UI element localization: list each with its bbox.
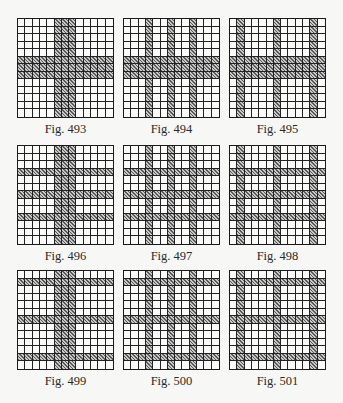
hatched-cell [274,79,281,87]
hatched-cell [69,42,76,50]
hatched-cell [62,339,69,347]
hatched-cell [84,169,91,177]
grid-cell [18,206,25,214]
grid-cell [47,109,54,117]
hatched-cell [69,161,76,169]
grid-cell [303,361,310,369]
hatched-cell [131,64,138,72]
hatched-cell [62,109,69,117]
grid-cell [212,331,219,339]
hatched-cell [237,236,244,244]
grid-cell [318,236,325,244]
hatched-cell [168,286,175,294]
hatched-cell [69,102,76,110]
hatched-cell [55,331,62,339]
grid-cell [182,271,189,279]
grid-cell [47,49,54,57]
grid-cell [252,102,259,110]
grid-cell [131,27,138,35]
figure-caption: Fig. 498 [229,249,326,264]
figure-495: Fig. 495 [229,18,326,137]
hatched-cell [131,72,138,80]
grid-cell [245,184,252,192]
hatched-cell [33,169,40,177]
hatched-cell [55,169,62,177]
grid-cell [84,361,91,369]
hatched-cell [40,57,47,65]
hatched-cell [168,49,175,57]
grid-cell [252,94,259,102]
grid-cell [212,184,219,192]
hatched-cell [204,169,211,177]
grid-cell [230,309,237,317]
grid-cell [175,184,182,192]
hatched-cell [230,57,237,65]
hatched-cell [84,354,91,362]
grid-cell [288,109,295,117]
grid-cell [230,361,237,369]
grid-cell [131,346,138,354]
hatched-cell [274,109,281,117]
hatched-cell [237,191,244,199]
grid-cell [303,331,310,339]
hatched-cell [69,331,76,339]
hatched-grid [229,18,326,118]
hatched-cell [237,161,244,169]
hatched-cell [55,199,62,207]
grid-cell [33,42,40,50]
hatched-cell [168,72,175,80]
grid-cell [131,176,138,184]
hatched-cell [62,271,69,279]
grid-cell [318,221,325,229]
grid-cell [18,146,25,154]
grid-cell [153,102,160,110]
grid-cell [252,294,259,302]
hatched-cell [146,279,153,287]
grid-cell [303,184,310,192]
grid-cell [131,236,138,244]
grid-cell [288,271,295,279]
hatched-cell [47,57,54,65]
grid-cell [197,49,204,57]
grid-cell [267,19,274,27]
hatched-cell [245,214,252,222]
grid-cell [124,161,131,169]
grid-cell [91,34,98,42]
hatched-cell [245,72,252,80]
grid-cell [153,176,160,184]
figure-caption: Fig. 493 [17,122,114,137]
hatched-cell [168,294,175,302]
grid-cell [296,221,303,229]
grid-cell [124,79,131,87]
hatched-cell [190,49,197,57]
grid-cell [204,27,211,35]
grid-cell [212,176,219,184]
hatched-cell [131,354,138,362]
grid-cell [131,154,138,162]
grid-cell [230,94,237,102]
grid-cell [124,221,131,229]
grid-cell [47,324,54,332]
grid-cell [288,27,295,35]
grid-cell [252,27,259,35]
grid-cell [175,146,182,154]
grid-cell [40,331,47,339]
grid-cell [33,199,40,207]
grid-cell [252,34,259,42]
grid-cell [259,339,266,347]
grid-cell [161,87,168,95]
grid-cell [47,271,54,279]
grid-cell [175,94,182,102]
grid-cell [40,199,47,207]
grid-cell [267,324,274,332]
grid-cell [161,206,168,214]
grid-cell [259,206,266,214]
grid-cell [84,236,91,244]
hatched-cell [33,279,40,287]
hatched-cell [230,279,237,287]
hatched-cell [106,64,113,72]
grid-cell [182,309,189,317]
grid-cell [91,229,98,237]
grid-cell [18,34,25,42]
grid-cell [76,79,83,87]
